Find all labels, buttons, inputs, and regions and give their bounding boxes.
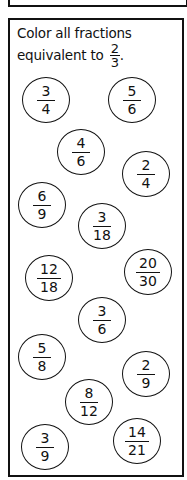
numerator: 3	[36, 431, 54, 448]
fraction-circle[interactable]: 58	[18, 334, 66, 380]
fraction: 1421	[125, 425, 149, 458]
previous-box-bottom-border	[8, 0, 187, 7]
denominator: 4	[42, 101, 51, 117]
fraction-circle[interactable]: 39	[21, 424, 69, 470]
fraction-circle[interactable]: 1421	[113, 418, 161, 464]
fraction: 39	[36, 431, 54, 464]
fraction-circle[interactable]: 69	[18, 182, 66, 228]
denominator: 6	[128, 101, 137, 117]
denominator: 12	[80, 403, 98, 419]
fraction-circle[interactable]: 24	[122, 151, 170, 197]
instruction-line-2: equivalent to	[17, 47, 104, 63]
target-fraction: 2 3	[110, 42, 120, 69]
denominator: 30	[139, 273, 157, 289]
fraction-circle[interactable]: 812	[65, 379, 113, 425]
numerator: 4	[72, 136, 90, 153]
denominator: 6	[77, 153, 86, 169]
numerator: 2	[137, 358, 155, 375]
fraction: 2030	[136, 256, 160, 289]
numerator: 5	[33, 341, 51, 358]
denominator: 18	[40, 279, 58, 295]
fraction: 36	[93, 304, 111, 337]
fraction: 58	[33, 341, 51, 374]
numerator: 14	[125, 425, 149, 442]
denominator: 9	[38, 206, 47, 222]
fraction-circle[interactable]: 56	[108, 77, 156, 123]
fraction: 69	[33, 189, 51, 222]
fraction: 1218	[37, 262, 61, 295]
denominator: 9	[41, 448, 50, 464]
fraction: 812	[80, 386, 98, 419]
target-numerator: 2	[110, 42, 120, 56]
numerator: 3	[93, 210, 111, 227]
denominator: 21	[128, 442, 146, 458]
instruction-period: .	[120, 47, 124, 63]
numerator: 20	[136, 256, 160, 273]
numerator: 8	[80, 386, 98, 403]
numerator: 3	[93, 304, 111, 321]
numerator: 2	[137, 158, 155, 175]
fraction-circle[interactable]: 34	[22, 77, 70, 123]
fraction: 29	[137, 358, 155, 391]
fraction-circle[interactable]: 36	[78, 297, 126, 343]
fraction-circle[interactable]: 2030	[124, 249, 172, 295]
target-denominator: 3	[111, 56, 119, 69]
fraction-circle[interactable]: 46	[57, 129, 105, 175]
fraction: 46	[72, 136, 90, 169]
fraction: 56	[123, 84, 141, 117]
fraction: 24	[137, 158, 155, 191]
denominator: 9	[142, 375, 151, 391]
fraction-circle[interactable]: 318	[78, 203, 126, 249]
fraction-circle[interactable]: 29	[122, 351, 170, 397]
instruction-line-1: Color all fractions	[17, 25, 132, 41]
fraction: 318	[93, 210, 111, 243]
denominator: 18	[93, 227, 111, 243]
numerator: 12	[37, 262, 61, 279]
denominator: 6	[98, 321, 107, 337]
denominator: 4	[142, 175, 151, 191]
denominator: 8	[38, 358, 47, 374]
instruction-text: Color all fractions equivalent to 2 3 .	[17, 24, 177, 69]
numerator: 5	[123, 84, 141, 101]
numerator: 3	[37, 84, 55, 101]
fraction: 34	[37, 84, 55, 117]
numerator: 6	[33, 189, 51, 206]
fraction-circle[interactable]: 1218	[25, 255, 73, 301]
